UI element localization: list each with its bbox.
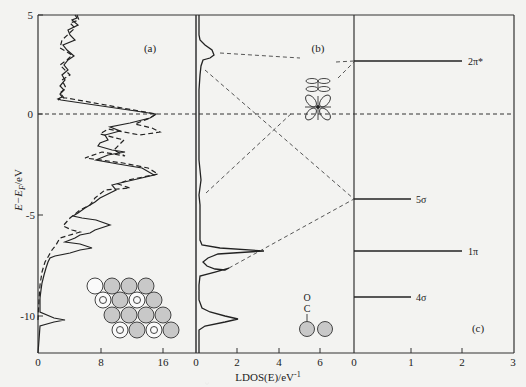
level-label-5sigma: 5σ — [416, 194, 427, 205]
x-tick-label-c: 1 — [408, 356, 414, 368]
x-tick-label-c: 0 — [351, 356, 357, 368]
panel-label-b: (b) — [312, 42, 325, 55]
carbon-label: C — [304, 303, 311, 314]
surface-atom — [121, 307, 137, 323]
x-tick-label-b: 6 — [317, 356, 323, 368]
panel-label-a: (a) — [144, 42, 157, 55]
ldos-figure: 5 0 -5 -10 E−EF/eV 0 8 16 0 2 4 6 0 1 2 … — [0, 0, 526, 387]
x-tick-label-b: 0 — [193, 356, 199, 368]
co-marker-inner — [151, 327, 158, 334]
co-marker-inner — [100, 297, 107, 304]
surface-atom — [138, 307, 154, 323]
x-tick-label-c: 2 — [459, 356, 465, 368]
level-label-4sigma: 4σ — [416, 292, 427, 303]
x-tick-label-a: 0 — [35, 356, 41, 368]
level-label-1pi: 1π — [468, 246, 478, 257]
surface-atom — [163, 322, 179, 338]
co-molecule-icon: O C — [300, 292, 333, 337]
surface-atom — [104, 278, 120, 294]
panel-label-c: (c) — [472, 322, 485, 335]
x-tick-label-b: 2 — [234, 356, 240, 368]
surface-atom — [121, 278, 137, 294]
surface-atom — [112, 292, 128, 308]
x-ticks — [101, 348, 462, 353]
svg-text:E−EF/eV: E−EF/eV — [12, 169, 27, 212]
co-marker-inner — [134, 297, 141, 304]
y-axis-label: E−EF/eV — [12, 169, 27, 212]
y-tick-label: -5 — [26, 209, 36, 221]
surface-atom — [129, 322, 145, 338]
surface-atom-empty — [87, 278, 103, 294]
x-tick-label-a: 8 — [98, 356, 104, 368]
level-label-2pi-star: 2π* — [468, 56, 483, 67]
co-marker-inner — [117, 327, 124, 334]
y-tick-label: -10 — [20, 310, 35, 322]
surface-atom — [146, 292, 162, 308]
x-tick-label-a: 16 — [158, 356, 170, 368]
co-ldos-curve — [199, 15, 264, 353]
surface-atom — [138, 278, 154, 294]
y-tick-label: 0 — [28, 108, 34, 120]
surface-atom — [155, 307, 171, 323]
surface-lattice-diagram — [87, 278, 179, 338]
x-tick-label-c: 3 — [510, 356, 516, 368]
y-tick-label: 5 — [28, 9, 34, 21]
level-correlation-lines — [205, 53, 354, 384]
molecular-levels — [354, 61, 462, 297]
oxygen-label: O — [303, 292, 310, 303]
x-tick-label-b: 4 — [276, 356, 282, 368]
orbital-diagram-icon — [303, 79, 332, 122]
x-axis-label: LDOS(E)/eV-1 — [235, 370, 300, 384]
surface-atom — [104, 307, 120, 323]
